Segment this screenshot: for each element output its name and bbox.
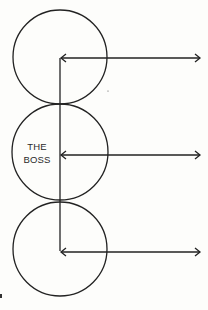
top-arrow (61, 54, 200, 62)
boss-label: THE BOSS (22, 140, 52, 166)
corner-mark (0, 294, 2, 298)
boss-label-line2: BOSS (22, 153, 52, 166)
bottom-arrow (61, 248, 200, 256)
middle-arrow (61, 151, 200, 159)
boss-label-line1: THE (22, 140, 52, 153)
speck-mark (107, 90, 108, 91)
